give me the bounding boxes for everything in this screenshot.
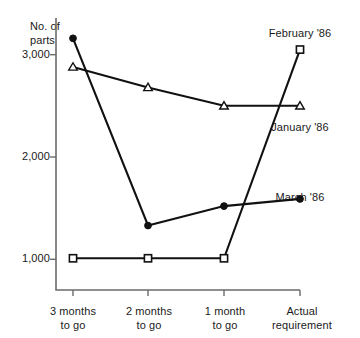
series-path bbox=[73, 67, 300, 106]
data-point-marker bbox=[145, 222, 152, 229]
data-point-marker bbox=[69, 255, 76, 262]
series-layer bbox=[69, 35, 305, 262]
series-march-86 bbox=[70, 35, 304, 229]
line-chart: No. ofparts 3,000 2,000 1,000 3 monthsto… bbox=[0, 0, 360, 338]
data-point-marker bbox=[220, 255, 227, 262]
data-point-marker bbox=[144, 255, 151, 262]
series-february-86 bbox=[69, 46, 303, 262]
series-path bbox=[73, 38, 300, 225]
data-point-marker bbox=[296, 46, 303, 53]
axis-lines bbox=[56, 18, 300, 290]
data-point-marker bbox=[70, 35, 77, 42]
data-point-marker bbox=[221, 203, 228, 210]
data-point-marker bbox=[69, 63, 78, 70]
series-january-86 bbox=[69, 63, 305, 109]
axes bbox=[50, 18, 300, 296]
plot-area bbox=[0, 0, 360, 338]
data-point-marker bbox=[297, 196, 304, 203]
series-path bbox=[73, 50, 300, 259]
